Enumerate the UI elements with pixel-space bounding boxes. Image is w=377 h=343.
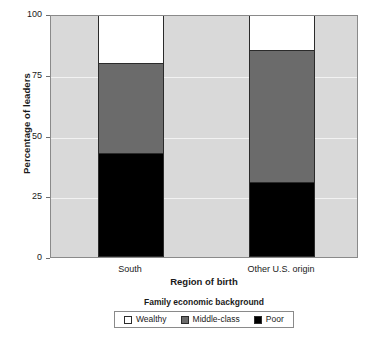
bar-segment-poor[interactable]: [98, 153, 164, 257]
legend-item-wealthy[interactable]: Wealthy: [124, 315, 167, 324]
legend-item-label: Wealthy: [136, 315, 167, 324]
y-tick-label: 100: [2, 10, 42, 19]
legend-swatch-icon: [254, 316, 262, 324]
bar-south[interactable]: [98, 15, 164, 257]
bar-segment-wealthy[interactable]: [98, 15, 164, 63]
legend-title: Family economic background: [50, 297, 358, 307]
bar-segment-wealthy[interactable]: [249, 15, 315, 50]
legend-item-middle-class[interactable]: Middle-class: [181, 315, 240, 324]
bar-other-u-s-origin[interactable]: [249, 15, 315, 257]
legend: WealthyMiddle-classPoor: [114, 311, 294, 328]
legend-item-label: Poor: [266, 315, 284, 324]
x-tick-label: Other U.S. origin: [211, 264, 351, 274]
legend-item-label: Middle-class: [193, 315, 240, 324]
x-tick-label: South: [60, 264, 200, 274]
plot-area: [50, 15, 358, 258]
bar-segment-middle-class[interactable]: [98, 63, 164, 153]
y-tick-label: 50: [2, 132, 42, 141]
stacked-bar-chart: Percentage of leaders 1007550250 SouthOt…: [0, 0, 377, 343]
bar-segment-middle-class[interactable]: [249, 50, 315, 181]
legend-item-poor[interactable]: Poor: [254, 315, 284, 324]
x-axis-title: Region of birth: [50, 276, 358, 287]
bar-segment-poor[interactable]: [249, 182, 315, 257]
legend-swatch-icon: [124, 316, 132, 324]
y-tick-label: 25: [2, 192, 42, 201]
legend-swatch-icon: [181, 316, 189, 324]
y-tick-mark: [46, 258, 50, 259]
y-tick-label: 75: [2, 71, 42, 80]
y-tick-label: 0: [2, 253, 42, 262]
